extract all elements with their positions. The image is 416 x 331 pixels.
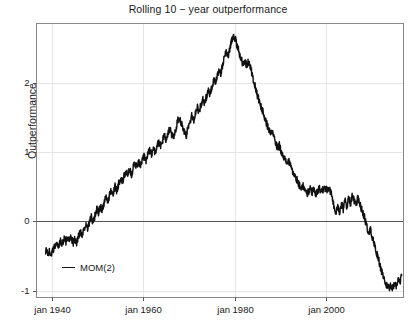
legend-label-mom2: MOM(2): [80, 262, 115, 273]
x-tick-label: jan 2000: [292, 304, 362, 315]
x-tick-label: jan 1980: [201, 304, 271, 315]
chart-legend[interactable]: MOM(2): [62, 262, 115, 273]
y-tick-label: 0: [4, 215, 30, 226]
plot-frame: [37, 24, 404, 298]
data-series-layer: [46, 35, 402, 291]
legend-line-swatch: [62, 267, 75, 268]
series-line-mom-2: [46, 35, 402, 291]
y-tick-label: 2: [4, 77, 30, 88]
x-tick-label: jan 1960: [109, 304, 179, 315]
y-tick-label: -1: [4, 285, 30, 296]
grid-lines: [37, 24, 404, 298]
y-tick-label: 1: [4, 146, 30, 157]
x-tick-label: jan 1940: [18, 304, 88, 315]
chart-figure: Rolling 10 − year outperformance Outperf…: [0, 0, 416, 331]
plot-area: [0, 0, 416, 331]
